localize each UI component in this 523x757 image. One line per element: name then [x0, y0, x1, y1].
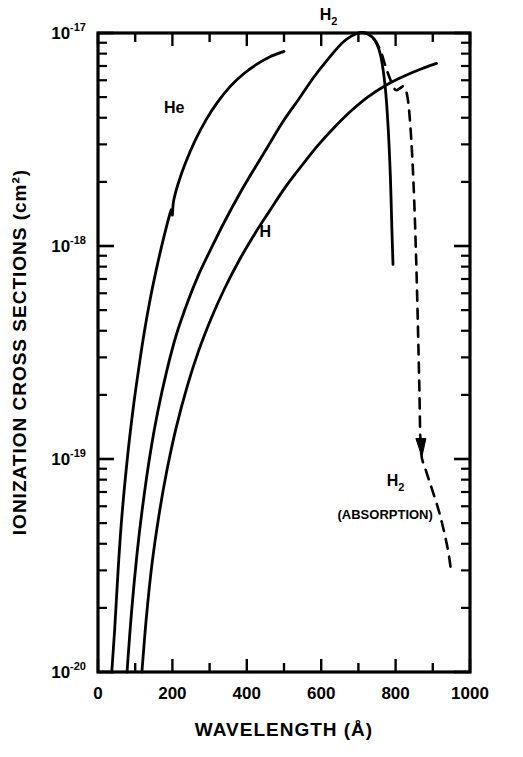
curve-label-he: He [164, 99, 185, 116]
y-tick-mantissa: 10 [51, 450, 70, 469]
x-tick-label: 1000 [451, 684, 489, 703]
x-tick-label: 800 [381, 684, 409, 703]
y-tick-exponent: -18 [70, 234, 86, 246]
x-tick-label: 400 [233, 684, 261, 703]
ionization-cross-section-chart: 02004006008001000 10-1710-1810-1910-20 H… [0, 0, 523, 757]
x-axis-title: WAVELENGTH (Å) [195, 719, 373, 740]
y-tick-mantissa: 10 [51, 663, 70, 682]
y-tick-exponent: -19 [70, 447, 86, 459]
y-axis-title: IONIZATION CROSS SECTIONS (cm²) [9, 169, 30, 535]
x-tick-label: 600 [307, 684, 335, 703]
x-tick-label: 200 [158, 684, 186, 703]
y-tick-exponent: -17 [70, 21, 86, 33]
y-tick-exponent: -20 [70, 660, 86, 672]
figure-container: 02004006008001000 10-1710-1810-1910-20 H… [0, 0, 523, 757]
curve-sublabel-h2-absorption: (ABSORPTION) [338, 507, 433, 522]
curve-label-h: H [260, 223, 272, 240]
y-tick-mantissa: 10 [51, 237, 70, 256]
chart-background [0, 0, 523, 757]
y-tick-mantissa: 10 [51, 24, 70, 43]
x-tick-label: 0 [93, 684, 102, 703]
